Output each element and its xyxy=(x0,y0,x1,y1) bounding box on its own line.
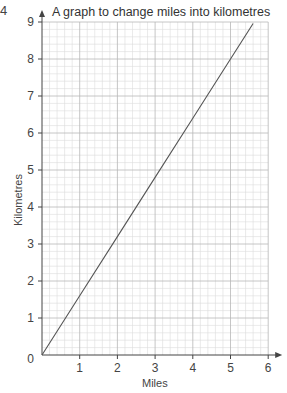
svg-text:1: 1 xyxy=(27,311,34,325)
svg-text:7: 7 xyxy=(27,89,34,103)
svg-text:5: 5 xyxy=(227,361,234,375)
svg-text:6: 6 xyxy=(27,126,34,140)
svg-text:0: 0 xyxy=(27,352,34,366)
svg-text:3: 3 xyxy=(152,361,159,375)
svg-text:9: 9 xyxy=(27,15,34,29)
chart-plot: 1234560123456789 xyxy=(0,0,287,393)
svg-text:6: 6 xyxy=(265,361,272,375)
x-axis-label: Miles xyxy=(142,377,168,389)
svg-text:4: 4 xyxy=(189,361,196,375)
y-axis-label: Kilometres xyxy=(12,174,24,226)
svg-text:2: 2 xyxy=(114,361,121,375)
svg-text:1: 1 xyxy=(76,361,83,375)
svg-text:8: 8 xyxy=(27,52,34,66)
svg-text:2: 2 xyxy=(27,274,34,288)
svg-text:3: 3 xyxy=(27,237,34,251)
svg-text:5: 5 xyxy=(27,163,34,177)
svg-text:4: 4 xyxy=(27,200,34,214)
